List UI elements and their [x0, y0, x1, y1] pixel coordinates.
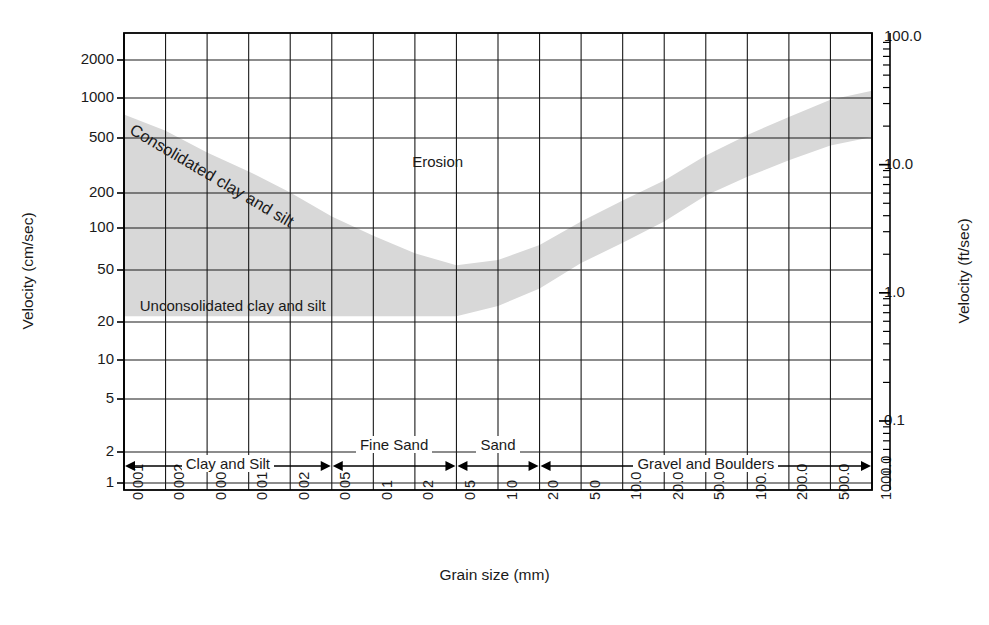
grain-class-arrow-left: [125, 461, 135, 471]
annotation-erosion: Erosion: [412, 153, 463, 170]
grain-class-arrow-left: [333, 461, 343, 471]
chart-figure: Velocity (cm/sec) Velocity (ft/sec) Grai…: [0, 0, 989, 625]
annotation-unconsolidated-clay-and-silt: Unconsolidated clay and silt: [140, 297, 326, 314]
grain-class-arrow-left: [457, 461, 467, 471]
grain-class-label: Gravel and Boulders: [633, 455, 778, 472]
grain-class-arrow-right: [321, 461, 331, 471]
grain-class-label: Fine Sand: [356, 436, 432, 453]
grain-class-arrow-right: [861, 461, 871, 471]
grain-class-label: Clay and Silt: [182, 455, 274, 472]
grain-class-label: Sand: [476, 436, 519, 453]
grain-class-arrow-right: [445, 461, 455, 471]
grain-class-arrow-left: [541, 461, 551, 471]
grain-class-arrow-right: [529, 461, 539, 471]
